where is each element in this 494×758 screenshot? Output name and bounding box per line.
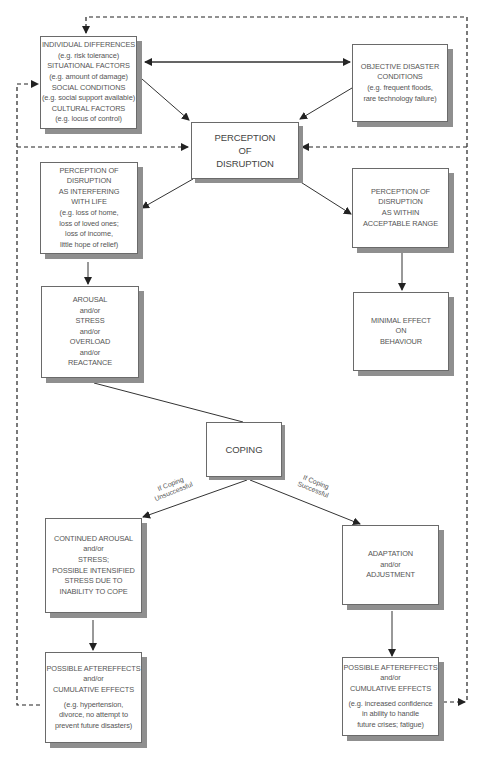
- aftereffects-right-box: POSSIBLE AFTEREFFECTS and/or CUMULATIVE …: [342, 657, 439, 736]
- aftereffects-left-box: POSSIBLE AFTEREFFECTS and/or CUMULATIVE …: [45, 652, 142, 743]
- box-text: ADAPTATION: [368, 549, 413, 560]
- box-text: and/or: [80, 348, 100, 359]
- box-text: CONTINUED AROUSAL: [54, 534, 133, 545]
- box-text: POSSIBLE AFTEREFFECTS: [47, 664, 141, 675]
- box-text: CUMULATIVE EFFECTS: [350, 684, 431, 695]
- box-text: (e.g. risk tolerance): [58, 51, 119, 62]
- box-text: and/or: [80, 327, 100, 338]
- box-text: INABILITY TO COPE: [59, 587, 127, 598]
- box-text: OVERLOAD: [70, 337, 110, 348]
- box-text: little hope of relief): [60, 240, 118, 251]
- box-text: and/or: [83, 544, 103, 555]
- minimal-effect-box: MINIMAL EFFECT ON BEHAVIOUR: [353, 292, 449, 371]
- box-text: PERCEPTION OF: [371, 187, 430, 198]
- box-text: (e.g. loss of home,: [60, 208, 119, 219]
- box-text: (e.g. social support available): [42, 93, 135, 104]
- box-text: (e.g. frequent floods,: [367, 83, 433, 94]
- box-text: (e.g. increased confidence: [348, 699, 432, 710]
- box-text: ADJUSTMENT: [366, 570, 415, 581]
- perception-of-disruption-box: PERCEPTION OF DISRUPTION: [191, 122, 299, 179]
- objective-conditions-box: OBJECTIVE DISASTER CONDITIONS (e.g. freq…: [352, 44, 448, 122]
- coping-box: COPING: [206, 422, 282, 477]
- box-text: CULTURAL FACTORS: [52, 104, 125, 115]
- box-text: prevent future disasters): [55, 721, 132, 732]
- box-text: COPING: [226, 443, 263, 456]
- box-text: AS WITHIN: [382, 208, 419, 219]
- box-text: rare technology failure): [363, 94, 436, 105]
- box-text: AS INTERFERING: [59, 187, 120, 198]
- box-text: (e.g. amount of damage): [49, 72, 128, 83]
- box-text: OBJECTIVE DISASTER: [361, 62, 439, 73]
- box-text: POSSIBLE INTENSIFIED: [52, 566, 135, 577]
- arousal-box: AROUSAL and/or STRESS and/or OVERLOAD an…: [41, 286, 139, 378]
- box-text: DISRUPTION: [67, 176, 112, 187]
- box-text: SOCIAL CONDITIONS: [52, 83, 126, 94]
- box-text: loss of income,: [65, 229, 113, 240]
- box-text: MINIMAL EFFECT: [371, 316, 431, 327]
- perception-interfering-box: PERCEPTION OF DISRUPTION AS INTERFERING …: [40, 162, 138, 254]
- box-text: PERCEPTION: [215, 131, 276, 144]
- box-text: ON: [396, 326, 407, 337]
- box-text: and/or: [380, 673, 400, 684]
- box-text: STRESS: [76, 316, 105, 327]
- box-text: STRESS DUE TO: [65, 576, 123, 587]
- box-text: INDIVIDUAL DIFFERENCES: [42, 40, 135, 51]
- box-text: SITUATIONAL FACTORS: [47, 61, 130, 72]
- box-text: (e.g. hypertension,: [64, 700, 123, 711]
- box-text: DISRUPTION: [216, 157, 274, 170]
- perception-acceptable-box: PERCEPTION OF DISRUPTION AS WITHIN ACCEP…: [352, 168, 449, 248]
- box-text: future crises; fatigue): [357, 720, 424, 731]
- box-text: WITH LIFE: [71, 197, 107, 208]
- box-text: and/or: [380, 560, 400, 571]
- box-text: AROUSAL: [73, 295, 108, 306]
- box-text: CUMULATIVE EFFECTS: [53, 685, 134, 696]
- box-text: POSSIBLE AFTEREFFECTS: [344, 663, 438, 674]
- box-text: STRESS;: [78, 555, 109, 566]
- box-text: and/or: [80, 306, 100, 317]
- box-text: ACCEPTABLE RANGE: [363, 219, 438, 230]
- box-text: DISRUPTION: [378, 197, 423, 208]
- box-text: CONDITIONS: [377, 72, 422, 83]
- box-text: (e.g. locus of control): [55, 114, 122, 125]
- box-text: loss of loved ones;: [59, 219, 118, 230]
- continued-arousal-box: CONTINUED AROUSAL and/or STRESS; POSSIBL…: [45, 518, 142, 613]
- adaptation-box: ADAPTATION and/or ADJUSTMENT: [342, 525, 439, 605]
- box-text: and/or: [83, 674, 103, 685]
- box-text: BEHAVIOUR: [380, 337, 422, 348]
- box-text: in ability to handle: [362, 709, 419, 720]
- individual-factors-box: INDIVIDUAL DIFFERENCES (e.g. risk tolera…: [40, 36, 137, 129]
- box-text: PERCEPTION OF: [59, 166, 118, 177]
- box-text: divorce, no attempt to: [59, 710, 128, 721]
- box-text: OF: [239, 144, 252, 157]
- box-text: REACTANCE: [68, 358, 112, 369]
